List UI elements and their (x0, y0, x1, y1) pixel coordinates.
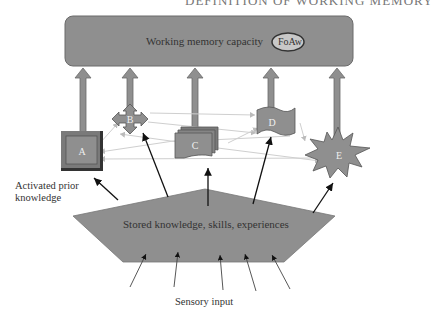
foaw-label: FoAw (278, 36, 302, 47)
svg-text:E: E (336, 150, 342, 161)
sensory-input-label: Sensory input (175, 296, 233, 307)
svg-text:B: B (127, 114, 134, 125)
stored-knowledge-label: Stored knowledge, skills, experiences (123, 218, 289, 230)
svg-text:C: C (192, 140, 199, 151)
activated-prior-knowledge-label: Activated prior knowledge (15, 180, 79, 204)
node-c: C (175, 127, 218, 158)
working-memory-label: Working memory capacity (146, 35, 263, 47)
side-label-line2: knowledge (15, 192, 79, 204)
node-e: E (305, 127, 370, 178)
node-b: B (112, 104, 148, 134)
node-a: A (61, 131, 103, 171)
side-label-line1: Activated prior (15, 180, 79, 192)
node-d: D (257, 107, 295, 135)
svg-text:A: A (78, 146, 86, 157)
svg-text:D: D (268, 117, 275, 128)
